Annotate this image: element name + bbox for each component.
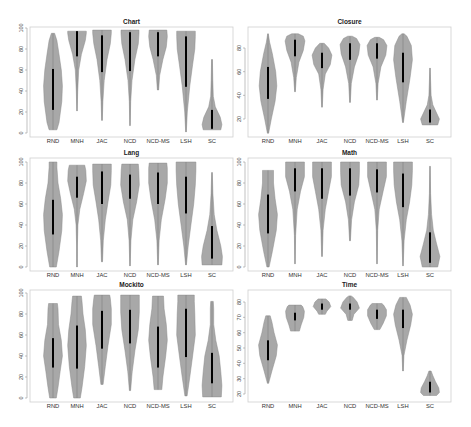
y-tick-label: 70 — [236, 314, 242, 320]
y-tick-label: 100 — [236, 157, 242, 166]
panel-title: Math — [342, 149, 357, 156]
iqr-bar — [321, 168, 323, 198]
iqr-bar — [376, 169, 378, 192]
iqr-bar — [211, 353, 213, 383]
y-tick-label: 20 — [236, 243, 242, 249]
x-category-label: LSH — [180, 403, 191, 409]
x-category-label: MNH — [288, 403, 301, 409]
x-category-label: SC — [426, 138, 434, 144]
y-tick-label: 40 — [236, 92, 242, 98]
iqr-bar — [429, 232, 431, 262]
violin-plot-figure: Chart020406080100RNDMNHJACNCDNCD-MSLSHSC… — [0, 0, 471, 427]
y-tick-label: 0 — [18, 396, 24, 399]
panel-chart: Chart020406080100RNDMNHJACNCDNCD-MSLSHSC — [18, 18, 233, 144]
y-tick-label: 20 — [236, 391, 242, 397]
iqr-bar — [349, 168, 351, 195]
y-tick-label: 60 — [236, 201, 242, 207]
x-category-label: JAC — [317, 272, 328, 278]
iqr-bar — [429, 382, 431, 393]
iqr-bar — [211, 226, 213, 259]
x-category-label: NCD-MS — [146, 272, 169, 278]
panel-title: Chart — [123, 18, 141, 25]
y-tick-label: 100 — [18, 157, 24, 166]
y-tick-label: 40 — [236, 222, 242, 228]
x-category-label: NCD-MS — [146, 138, 169, 144]
y-tick-label: 80 — [236, 299, 242, 305]
iqr-bar — [349, 304, 351, 310]
x-category-label: JAC — [317, 138, 328, 144]
x-category-label: LSH — [397, 403, 408, 409]
iqr-bar — [101, 311, 103, 349]
iqr-bar — [76, 31, 78, 56]
iqr-bar — [157, 32, 159, 56]
panel-lang: Lang020406080100RNDMNHJACNCDNCD-MSLSHSC — [18, 149, 233, 278]
y-tick-label: 30 — [236, 376, 242, 382]
x-category-label: MNH — [288, 272, 301, 278]
iqr-bar — [52, 338, 54, 367]
x-category-label: RND — [47, 272, 60, 278]
iqr-bar — [52, 69, 54, 110]
iqr-bar — [402, 310, 404, 328]
x-category-label: NCD-MS — [365, 403, 388, 409]
iqr-bar — [429, 110, 431, 123]
iqr-bar — [211, 110, 213, 129]
y-tick-label: 20 — [18, 109, 24, 115]
x-category-label: NCD — [344, 403, 357, 409]
y-tick-label: 60 — [18, 332, 24, 338]
y-tick-label: 20 — [236, 116, 242, 122]
y-tick-label: 60 — [18, 201, 24, 207]
x-category-label: RND — [47, 138, 60, 144]
x-category-label: LSH — [397, 272, 408, 278]
x-category-label: MNH — [70, 403, 83, 409]
y-tick-label: 0 — [236, 265, 242, 268]
x-category-label: LSH — [397, 138, 408, 144]
x-category-label: MNH — [70, 272, 83, 278]
x-category-label: MNH — [288, 138, 301, 144]
panel-title: Time — [342, 281, 357, 288]
iqr-bar — [185, 36, 187, 86]
y-tick-label: 80 — [18, 180, 24, 186]
figure-canvas: Chart020406080100RNDMNHJACNCDNCD-MSLSHSC… — [0, 0, 471, 427]
panel-closure: Closure20406080RNDMNHJACNCDNCD-MSLSHSC — [236, 18, 451, 144]
x-category-label: SC — [208, 138, 216, 144]
x-category-label: NCD — [344, 272, 357, 278]
x-category-label: SC — [208, 403, 216, 409]
iqr-bar — [321, 304, 323, 310]
panel-title: Lang — [124, 149, 140, 157]
y-tick-label: 40 — [236, 360, 242, 366]
x-category-label: NCD — [344, 138, 357, 144]
x-category-label: JAC — [317, 403, 328, 409]
iqr-bar — [376, 43, 378, 58]
y-tick-label: 20 — [18, 243, 24, 249]
x-category-label: JAC — [97, 138, 108, 144]
x-category-label: LSH — [180, 272, 191, 278]
iqr-bar — [267, 67, 269, 99]
iqr-bar — [402, 174, 404, 208]
x-category-label: NCD-MS — [365, 138, 388, 144]
y-tick-label: 80 — [18, 46, 24, 52]
iqr-bar — [321, 53, 323, 68]
y-tick-label: 80 — [18, 311, 24, 317]
x-category-label: NCD-MS — [365, 272, 388, 278]
iqr-bar — [267, 195, 269, 234]
panel-mockito: Mockito020406080100RNDMNHJACNCDNCD-MSLSH… — [18, 281, 233, 409]
y-tick-label: 20 — [18, 374, 24, 380]
panel-math: Math020406080100RNDMNHJACNCDNCD-MSLSHSC — [236, 149, 451, 278]
iqr-bar — [294, 40, 296, 57]
iqr-bar — [129, 310, 131, 344]
y-tick-label: 80 — [236, 180, 242, 186]
iqr-bar — [129, 32, 131, 71]
x-category-label: JAC — [97, 403, 108, 409]
iqr-bar — [52, 200, 54, 235]
y-tick-label: 60 — [236, 69, 242, 75]
iqr-bar — [402, 53, 404, 83]
y-tick-label: 60 — [236, 330, 242, 336]
iqr-bar — [76, 326, 78, 369]
iqr-bar — [376, 310, 378, 319]
iqr-bar — [185, 177, 187, 214]
y-tick-label: 0 — [18, 131, 24, 134]
x-category-label: NCD — [124, 403, 137, 409]
y-tick-label: 60 — [18, 67, 24, 73]
x-category-label: SC — [208, 272, 216, 278]
x-category-label: JAC — [97, 272, 108, 278]
